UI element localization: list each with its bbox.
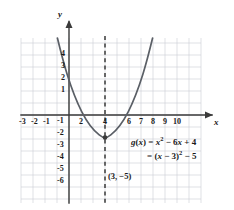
y-tick-label-2: 2 [61, 74, 65, 82]
y-tick-label-4: 4 [61, 50, 65, 58]
x-tick-label-2: 2 [79, 118, 83, 126]
x-tick-label-10: 10 [173, 118, 181, 126]
x-tick-label-9: 9 [163, 118, 167, 126]
y-tick-label--4: -4 [57, 153, 64, 161]
x-tick-label--2: -2 [31, 118, 38, 126]
y-axis-label: y [58, 10, 62, 19]
y-tick-label-1: 1 [61, 86, 65, 94]
y-tick-label--3: -3 [57, 141, 64, 149]
x-axis-label: x [214, 118, 219, 127]
vertex-label: (3, −5) [108, 172, 131, 181]
graph-figure: -3 -2 -1 2 4 6 7 8 9 10 4 3 2 1 -1 -2 -3… [0, 0, 234, 210]
x-tick-label--1: -1 [43, 118, 50, 126]
vertex-point-marker [103, 135, 108, 140]
y-tick-label--2: -2 [57, 129, 64, 137]
x-tick-label--3: -3 [19, 118, 26, 126]
equation-line-1: g(x) = x2 − 6x + 4 [131, 136, 196, 147]
x-tick-label-8: 8 [151, 118, 155, 126]
y-axis-arrowhead [66, 20, 73, 28]
y-tick-label--6: -6 [57, 177, 64, 185]
y-tick-label--1: -1 [57, 117, 64, 125]
y-tick-label--5: -5 [57, 165, 64, 173]
x-tick-label-6: 6 [127, 118, 131, 126]
x-tick-label-4: 4 [103, 118, 107, 126]
x-tick-label-7: 7 [139, 118, 143, 126]
equation-line-2: = (x − 3)2 − 5 [147, 150, 196, 161]
y-tick-label-3: 3 [61, 62, 65, 70]
x-axis-arrowhead [205, 112, 213, 119]
